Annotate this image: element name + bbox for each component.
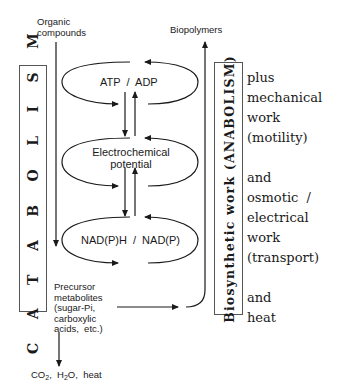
side-note-line: work <box>247 228 322 248</box>
side-note-line: and <box>247 288 322 308</box>
side-note-line: osmotic / <box>247 188 322 208</box>
catabolism-box: C A T A B O L I S M <box>19 65 47 312</box>
biopolymers-label: Biopolymers <box>170 24 222 35</box>
side-note-line: mechanical <box>247 88 322 108</box>
waste-products-label: CO2, H2O, heat <box>31 369 102 383</box>
side-note-line: (motility) <box>247 128 322 148</box>
side-note-line: (transport) <box>247 248 322 268</box>
co2-text: CO <box>31 369 45 380</box>
h2o-text-tail: O, <box>68 369 78 380</box>
anabolism-label: Biosynthetic work (ANABOLISM) <box>221 55 236 323</box>
precursor-line: (sugar-Pi, <box>54 303 103 314</box>
side-note-line: work <box>247 108 322 128</box>
atp-adp-label: ATP / ADP <box>100 76 158 88</box>
heat-text: heat <box>83 369 102 380</box>
precursor-line: Precursor <box>54 282 103 293</box>
potential-line: potential <box>92 158 170 170</box>
anabolism-box: Biosynthetic work (ANABOLISM) <box>214 62 243 315</box>
side-note-spacer <box>247 148 322 168</box>
organic-compounds-line: Organic <box>37 16 86 27</box>
precursor-line: acids, etc.) <box>54 324 103 335</box>
biopolymer-flow-arrow <box>186 42 205 307</box>
side-note-line: electrical <box>247 208 322 228</box>
h2o-text: H <box>57 369 64 380</box>
catabolism-label: C A T A B O L I S M <box>25 24 41 354</box>
co2-subscript: 2 <box>45 374 49 381</box>
metabolism-diagram: C A T A B O L I S M Biosynthetic work (A… <box>0 0 337 391</box>
organic-compounds-label: Organic compounds <box>37 16 86 38</box>
side-note-line: and <box>247 168 322 188</box>
precursor-metabolites-label: Precursor metabolites (sugar-Pi, carboxy… <box>54 282 103 335</box>
side-notes: plus mechanical work (motility) and osmo… <box>247 68 322 328</box>
electrochemical-potential-label: Electrochemical potential <box>92 146 170 170</box>
side-note-line: plus <box>247 68 322 88</box>
organic-compounds-line: compounds <box>37 27 86 38</box>
side-note-spacer <box>247 268 322 288</box>
nadph-nadp-label: NAD(P)H / NAD(P) <box>81 234 180 246</box>
electrochemical-line: Electrochemical <box>92 146 170 158</box>
side-note-line: heat <box>247 308 322 328</box>
